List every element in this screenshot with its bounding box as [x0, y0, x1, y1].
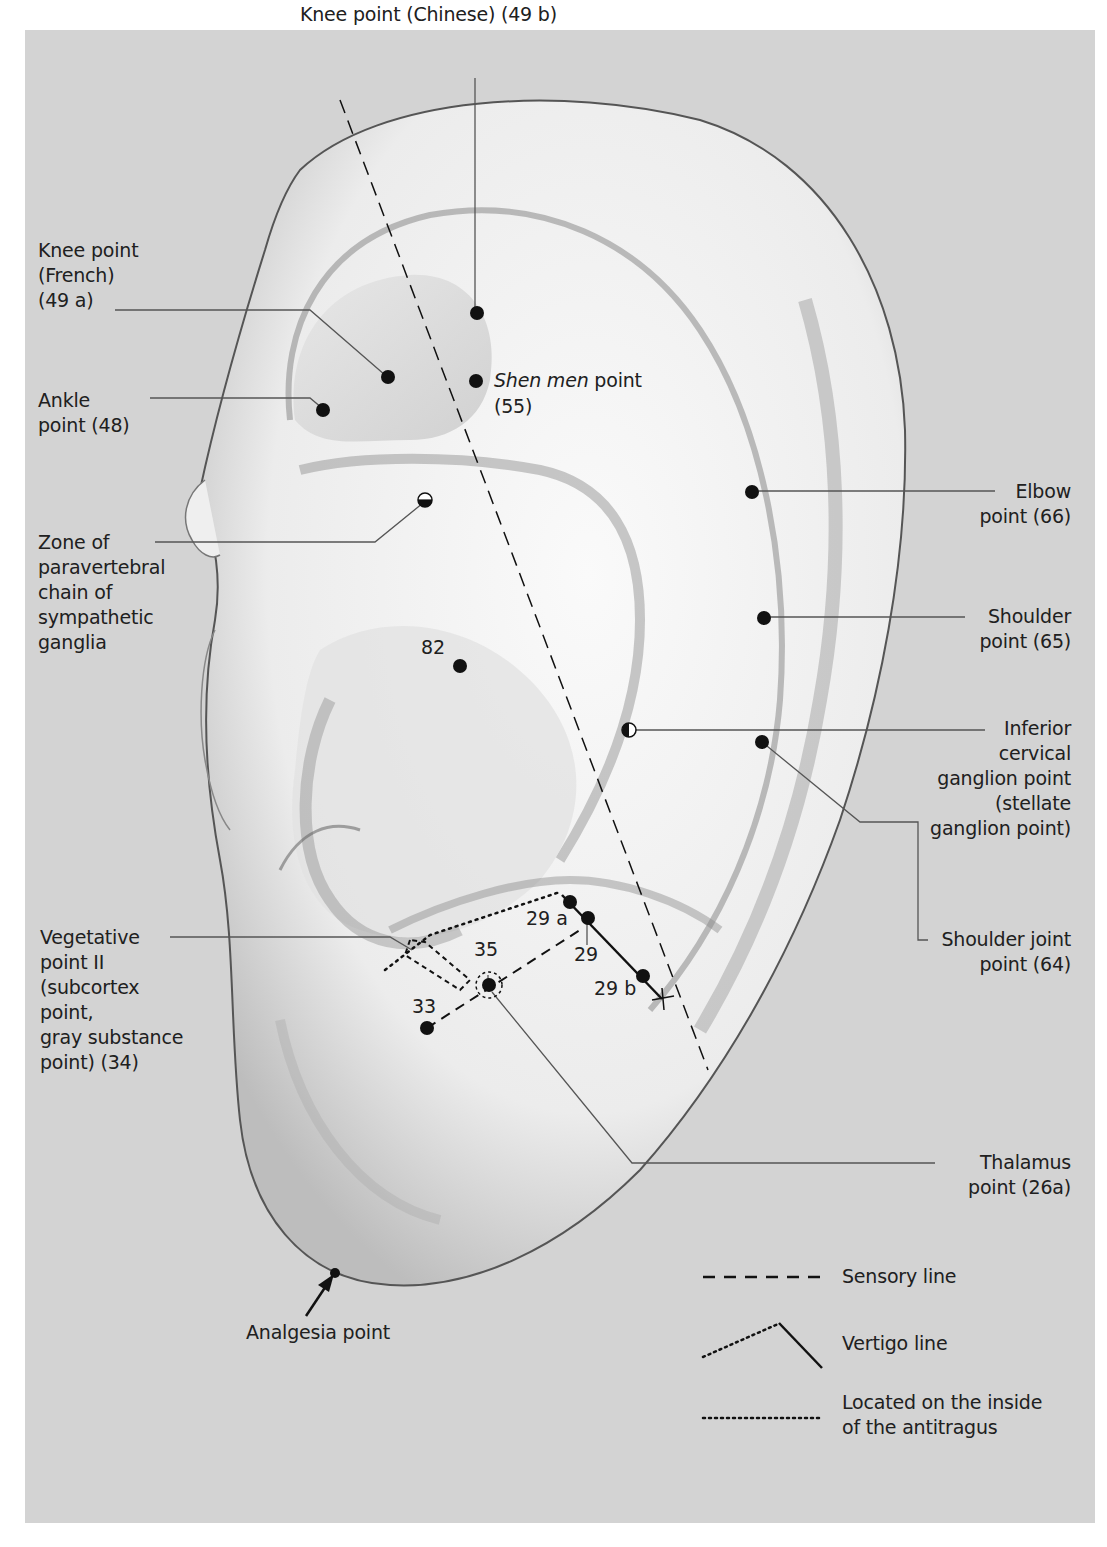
- number-29: 29: [574, 943, 598, 965]
- label-zone-paravertebral: Zone of paravertebral chain of sympathet…: [38, 530, 165, 655]
- legend-sensory-label: Sensory line: [842, 1264, 956, 1289]
- label-analgesia: Analgesia point: [246, 1320, 390, 1345]
- label-shoulder: Shoulder point (65): [980, 604, 1072, 654]
- point-ankle-48: [316, 403, 330, 417]
- point-knee-chinese-49b: [470, 306, 484, 320]
- point-paravertebral-zone: [418, 493, 432, 507]
- label-knee-chinese: Knee point (Chinese) (49 b): [300, 2, 557, 27]
- label-ankle: Ankle point (48): [38, 388, 130, 438]
- point-elbow-66: [745, 485, 759, 499]
- label-elbow: Elbow point (66): [980, 479, 1072, 529]
- point-35-thalamus: [482, 978, 496, 992]
- point-shoulder-65: [757, 611, 771, 625]
- point-shoulder-joint-64: [755, 735, 769, 749]
- label-thalamus: Thalamus point (26a): [968, 1150, 1071, 1200]
- legend-vertigo-label: Vertigo line: [842, 1331, 947, 1356]
- point-knee-french-49a: [381, 370, 395, 384]
- label-knee-french: Knee point (French) (49 a): [38, 238, 138, 313]
- legend-antitragus-label: Located on the inside of the antitragus: [842, 1390, 1042, 1440]
- label-shoulder-joint: Shoulder joint point (64): [941, 927, 1071, 977]
- label-shen-men-italic: Shen men: [494, 369, 589, 391]
- point-33: [420, 1021, 434, 1035]
- label-shen-men: Shen men point: [494, 368, 642, 393]
- label-shen-men-number: (55): [494, 394, 532, 419]
- point-analgesia: [330, 1268, 340, 1278]
- number-33: 33: [412, 995, 436, 1017]
- point-29: [581, 911, 595, 925]
- label-vegetative-point: Vegetative point II (subcortex point, gr…: [40, 925, 183, 1075]
- point-29b: [636, 969, 650, 983]
- point-shen-men-55: [469, 374, 483, 388]
- label-shen-men-rest: point: [589, 369, 642, 391]
- number-35: 35: [474, 938, 498, 960]
- label-inferior-cervical-ganglion: Inferior cervical ganglion point (stella…: [930, 716, 1071, 841]
- number-82: 82: [421, 636, 445, 658]
- number-29a: 29 a: [526, 907, 568, 929]
- number-29b: 29 b: [594, 977, 636, 999]
- legend-vertigo-symbol-solid: [779, 1323, 822, 1368]
- point-inferior-cervical-ganglion: [622, 723, 636, 737]
- legend-vertigo-symbol-dotted: [703, 1324, 778, 1357]
- point-82: [453, 659, 467, 673]
